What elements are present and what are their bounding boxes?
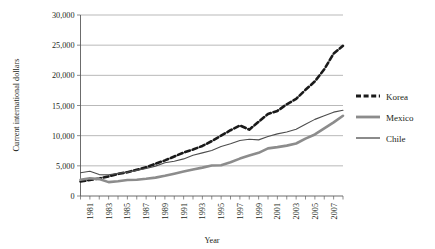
x-tick-label: 2005 xyxy=(311,203,320,219)
x-tick-label: 1999 xyxy=(255,203,264,219)
x-tick-label: 1993 xyxy=(198,203,207,219)
line-chart: 05,00010,00015,00020,00025,00030,000 198… xyxy=(0,0,435,249)
x-tick-label: 2003 xyxy=(292,203,301,219)
series-lines xyxy=(81,46,344,182)
gridlines xyxy=(81,15,344,166)
legend-label-chile: Chile xyxy=(386,134,406,144)
legend-label-mexico: Mexico xyxy=(386,113,414,123)
y-tick-label: 20,000 xyxy=(52,71,75,80)
y-tick-label: 30,000 xyxy=(52,11,75,20)
y-tick-label: 25,000 xyxy=(52,41,75,50)
x-tick-label: 1985 xyxy=(123,203,132,219)
legend-item-korea[interactable]: Korea xyxy=(356,92,408,102)
chart-figure: 05,00010,00015,00020,00025,00030,000 198… xyxy=(0,0,435,249)
x-tick-label: 1983 xyxy=(105,203,114,219)
y-tick-label: 5,000 xyxy=(56,162,74,171)
legend-item-chile[interactable]: Chile xyxy=(356,134,406,144)
y-axis-title: Current international dollars xyxy=(12,59,21,152)
x-tick-label: 1989 xyxy=(161,203,170,219)
y-tick-label: 10,000 xyxy=(52,132,75,141)
x-tick-label: 2007 xyxy=(330,203,339,219)
y-tick-label: 0 xyxy=(70,192,74,201)
legend-item-mexico[interactable]: Mexico xyxy=(356,113,414,123)
x-tick-label: 1987 xyxy=(142,203,151,219)
x-tick-label: 1995 xyxy=(217,203,226,219)
x-tick-label: 1997 xyxy=(236,203,245,219)
legend-label-korea: Korea xyxy=(386,92,408,102)
x-tick-label: 1981 xyxy=(86,203,95,219)
y-tick-label: 15,000 xyxy=(52,102,75,111)
series-line-korea xyxy=(81,46,344,182)
y-tick-marks xyxy=(77,15,81,196)
x-tick-label: 1991 xyxy=(180,203,189,219)
x-axis-title: Year xyxy=(204,236,219,245)
y-tick-labels: 05,00010,00015,00020,00025,00030,000 xyxy=(52,11,75,201)
x-tick-label: 2001 xyxy=(273,203,282,219)
x-tick-marks xyxy=(81,196,344,200)
chart-legend: Korea Mexico Chile xyxy=(356,92,414,144)
x-tick-labels: 1981198319851987198919911993199519971999… xyxy=(86,203,339,219)
